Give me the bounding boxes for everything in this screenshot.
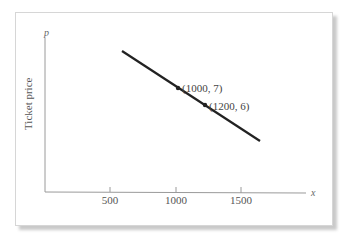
point-1000-7 [176,86,180,90]
point-label-1000-7: (1000, 7) [182,82,223,95]
x-axis [45,192,306,193]
demand-line [122,51,260,141]
y-axis-symbol: p [43,27,49,38]
plot-area: 500 1000 1500 x p (1000, 7) (1200, 6) [0,0,347,241]
x-tick-label-500: 500 [102,194,119,206]
point-1200-6 [203,103,207,107]
y-axis-title: Ticket price [22,78,34,130]
point-label-1200-6: (1200, 6) [209,100,250,113]
x-axis-symbol: x [310,187,316,198]
x-tick-label-1000: 1000 [165,194,188,206]
x-tick-label-1500: 1500 [230,194,253,206]
